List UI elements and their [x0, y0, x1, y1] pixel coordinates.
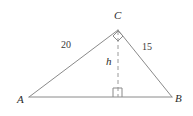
side-length-label-ac: 20	[61, 40, 71, 50]
altitude-label-h: h	[106, 56, 112, 67]
triangle-diagram-svg	[0, 0, 193, 116]
segment-ac	[29, 30, 118, 97]
geometry-figure: A B C h 20 15	[0, 0, 193, 116]
vertex-label-a: A	[17, 94, 24, 105]
side-length-label-cb: 15	[142, 42, 152, 52]
vertex-label-c: C	[114, 10, 121, 21]
vertex-label-b: B	[175, 93, 182, 104]
